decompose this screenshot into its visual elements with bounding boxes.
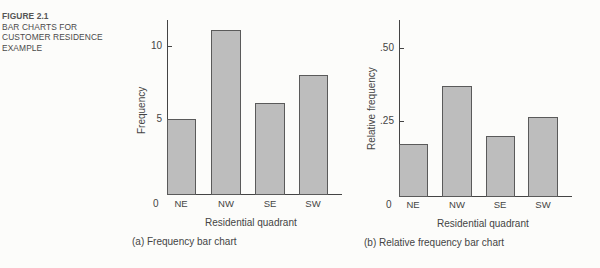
bar-sw	[528, 117, 558, 197]
y-axis-label: Relative frequency	[366, 67, 377, 150]
x-tick-label: NE	[393, 199, 433, 210]
x-tick-label: SW	[523, 199, 563, 210]
y-tick	[399, 121, 404, 122]
y-tick	[399, 48, 404, 49]
x-tick-label: NW	[437, 199, 477, 210]
origin-label: 0	[386, 199, 392, 210]
y-tick-label: .50	[370, 42, 394, 53]
chart-caption: (b) Relative frequency bar chart	[364, 237, 504, 248]
relative-frequency-bar-chart: .50 .25 0 Relative frequency NE NW SE SW…	[0, 0, 600, 268]
bar-ne	[399, 144, 428, 197]
bar-se	[486, 136, 515, 197]
x-axis-label: Residential quadrant	[437, 218, 529, 229]
x-tick-label: SE	[480, 199, 520, 210]
bar-nw	[442, 86, 472, 197]
